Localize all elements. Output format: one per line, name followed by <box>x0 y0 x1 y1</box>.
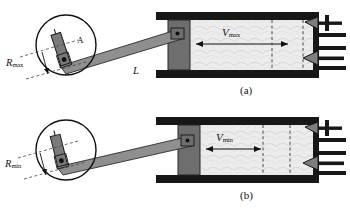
intake-port-bar-b <box>318 151 346 155</box>
crank-throw-b <box>48 129 69 169</box>
crank-label-a: A <box>77 36 84 45</box>
panel-caption-b: (b) <box>240 189 253 201</box>
radius-dimension-arrow-b <box>40 153 46 175</box>
radius-label-a: Rmax <box>6 58 23 69</box>
intake-port-stem-b <box>318 162 344 166</box>
radius-guide-upper-b <box>18 141 78 158</box>
panel-b-graphics <box>0 105 350 210</box>
piston-b <box>178 125 200 175</box>
intake-port-stem-a <box>318 57 344 61</box>
volume-label-b: Vmin <box>216 132 233 144</box>
intake-port-bar2-b <box>318 171 346 175</box>
exhaust-port-bar-a <box>318 33 346 37</box>
radius-dimension-arrow-a <box>42 52 48 74</box>
intake-port-bar2-a <box>318 66 346 70</box>
cylinder-wall-top-a <box>156 12 318 20</box>
volume-label-a: Vmax <box>222 27 240 39</box>
exhaust-valve-head-a <box>325 15 329 31</box>
panel-a: Rmax A L Vmax (a) <box>0 0 350 105</box>
exhaust-valve-head-b <box>325 120 329 136</box>
figure-canvas: Rmax A L Vmax (a) <box>0 0 350 210</box>
exhaust-port-stem-b <box>318 127 342 130</box>
cylinder-wall-top-b <box>156 117 318 125</box>
panel-caption-a: (a) <box>240 84 252 96</box>
wrist-pin-a <box>176 32 180 36</box>
radius-guide-upper-a <box>20 40 78 57</box>
radius-label-b: Rmin <box>5 159 21 170</box>
wrist-pin-b <box>186 139 190 143</box>
intake-port-bar-a <box>318 46 346 50</box>
exhaust-port-bar-b <box>318 138 346 142</box>
cylinder-wall-bottom-b <box>156 175 318 183</box>
rod-label-a: L <box>133 66 139 77</box>
panel-a-graphics <box>0 0 350 105</box>
exhaust-port-stem-a <box>318 22 342 25</box>
connecting-rod-b <box>57 137 192 175</box>
panel-b: Rmin Vmin (b) <box>0 105 350 210</box>
cylinder-wall-bottom-a <box>156 70 318 78</box>
